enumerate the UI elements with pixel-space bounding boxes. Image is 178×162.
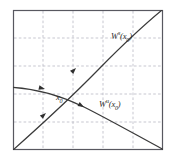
arrowhead-unstable-right <box>77 102 85 109</box>
label-wu-paren-close: ) <box>118 99 121 109</box>
curve-stable-manifold <box>13 2 172 150</box>
label-x0-subscript: 0 <box>60 98 63 104</box>
arrowhead-unstable-left <box>38 85 45 91</box>
label-wu-base: W <box>99 99 106 109</box>
label-ws-paren-close: ) <box>129 31 132 41</box>
plot-canvas <box>0 0 178 162</box>
label-stable-manifold: Ws(x0) <box>111 30 132 43</box>
curve-unstable-manifold <box>8 87 166 151</box>
arrowhead-stable-lower <box>40 111 48 119</box>
label-unstable-manifold: Wu(x0) <box>99 98 120 111</box>
arrowhead-stable-upper <box>70 66 78 74</box>
label-fixed-point: x0 <box>56 93 62 104</box>
label-ws-base: W <box>111 31 118 41</box>
manifold-diagram-figure: Ws(x0) Wu(x0) x0 <box>0 0 178 162</box>
